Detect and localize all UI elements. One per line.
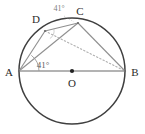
vertex-point-b xyxy=(124,70,126,72)
vertex-label-o: O xyxy=(68,78,76,89)
vertex-label-d: D xyxy=(32,14,40,25)
angle-arc-at-d xyxy=(50,29,54,39)
geometry-canvas xyxy=(0,0,145,134)
center-point-o xyxy=(70,69,74,73)
vertex-label-c: C xyxy=(76,6,83,17)
segment-c-b xyxy=(78,23,125,71)
vertex-point-c xyxy=(77,22,79,24)
angle-label-at-c: 41° xyxy=(53,5,64,13)
geometry-figure: A B C D O 41° 41° xyxy=(0,0,145,134)
vertex-point-d xyxy=(44,30,46,32)
vertex-point-a xyxy=(18,70,20,72)
vertex-label-b: B xyxy=(131,67,138,78)
angle-label-at-a: 41° xyxy=(37,61,50,70)
vertex-label-a: A xyxy=(5,67,13,78)
